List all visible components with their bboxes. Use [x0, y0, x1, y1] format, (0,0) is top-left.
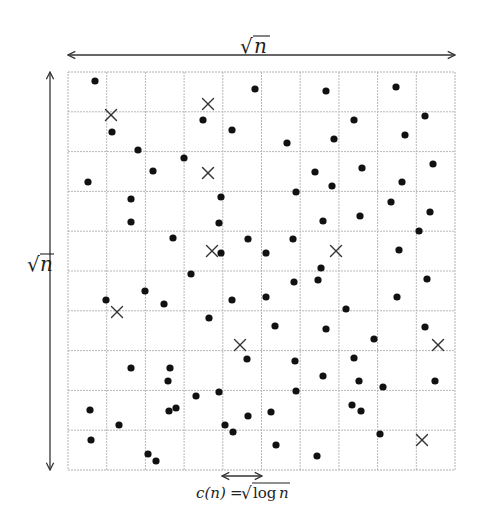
- point-dot: [392, 83, 399, 90]
- point-dot: [431, 377, 438, 384]
- cross-marker-icon: [417, 435, 428, 446]
- point-dot: [199, 116, 206, 123]
- point-dot: [267, 408, 274, 415]
- point-dot: [379, 383, 386, 390]
- point-dot: [322, 87, 329, 94]
- top-radical-sign: √: [240, 34, 253, 58]
- point-dot: [328, 182, 335, 189]
- point-dot: [172, 404, 179, 411]
- point-dot: [262, 249, 269, 256]
- point-dot: [290, 278, 297, 285]
- point-dot: [86, 406, 93, 413]
- point-dot: [401, 131, 408, 138]
- point-dot: [283, 139, 290, 146]
- point-dot: [244, 412, 251, 419]
- point-dot: [228, 296, 235, 303]
- point-dot: [192, 392, 199, 399]
- point-dot: [291, 357, 298, 364]
- point-dot: [180, 154, 187, 161]
- point-dot: [317, 264, 324, 271]
- point-dot: [330, 135, 337, 142]
- point-dot: [215, 388, 222, 395]
- point-dot: [165, 407, 172, 414]
- cross-marker-icon: [331, 246, 342, 257]
- cell-size-label: c(n) = √ log n: [196, 483, 290, 503]
- point-dot: [376, 430, 383, 437]
- point-dot: [393, 293, 400, 300]
- point-dot: [314, 276, 321, 283]
- point-dot: [187, 270, 194, 277]
- cross-marker-icon: [112, 307, 123, 318]
- point-dot: [348, 401, 355, 408]
- point-dot: [398, 178, 405, 185]
- point-dot: [426, 208, 433, 215]
- cell-size-var: n: [279, 484, 289, 502]
- cell-size-radical-sign: √: [241, 483, 252, 503]
- point-dot: [84, 178, 91, 185]
- point-dot: [169, 234, 176, 241]
- point-dot: [115, 421, 122, 428]
- point-dot: [149, 167, 156, 174]
- point-dot: [319, 372, 326, 379]
- point-dot: [350, 354, 357, 361]
- point-dot: [127, 195, 134, 202]
- point-dot: [313, 452, 320, 459]
- point-dot: [370, 335, 377, 342]
- point-dot: [342, 305, 349, 312]
- point-dot: [423, 275, 430, 282]
- left-dimension-symbol: n: [40, 252, 53, 276]
- cross-marker-icon: [203, 99, 214, 110]
- point-dot: [243, 355, 250, 362]
- point-dot: [421, 323, 428, 330]
- point-dot: [251, 85, 258, 92]
- point-dot: [152, 457, 159, 464]
- point-dot: [421, 112, 428, 119]
- point-dot: [215, 219, 222, 226]
- point-dot: [262, 293, 269, 300]
- point-dot: [271, 322, 278, 329]
- point-dot: [164, 377, 171, 384]
- point-dot: [350, 116, 357, 123]
- point-dot: [357, 407, 364, 414]
- marked-points: [106, 99, 444, 446]
- point-dot: [292, 188, 299, 195]
- point-dot: [229, 428, 236, 435]
- point-dot: [292, 387, 299, 394]
- point-dot: [134, 146, 141, 153]
- point-dot: [102, 296, 109, 303]
- cross-marker-icon: [235, 340, 246, 351]
- point-dot: [355, 377, 362, 384]
- point-dot: [144, 450, 151, 457]
- point-dot: [160, 300, 167, 307]
- point-dot: [319, 217, 326, 224]
- point-dot: [166, 364, 173, 371]
- top-dimension-symbol: n: [254, 34, 267, 58]
- point-dot: [322, 325, 329, 332]
- cell-size-lhs: c(n): [196, 484, 226, 502]
- point-dot: [127, 364, 134, 371]
- point-dot: [244, 235, 251, 242]
- point-dot: [221, 421, 228, 428]
- point-dot: [415, 227, 422, 234]
- point-dot: [429, 160, 436, 167]
- point-dot: [217, 193, 224, 200]
- point-dot: [356, 212, 363, 219]
- point-dot: [141, 287, 148, 294]
- cross-marker-icon: [203, 168, 214, 179]
- point-dot: [387, 198, 394, 205]
- left-dimension-label: √ n: [27, 252, 54, 276]
- point-dot: [217, 249, 224, 256]
- grid-diagram: √ n √ n c(n) = √ log n: [0, 0, 479, 527]
- point-dot: [127, 218, 134, 225]
- top-dimension-label: √ n: [240, 34, 270, 58]
- grid: [68, 72, 455, 470]
- cell-size-log: log: [253, 484, 277, 502]
- point-dot: [91, 77, 98, 84]
- point-dot: [205, 314, 212, 321]
- cross-marker-icon: [207, 246, 218, 257]
- point-dot: [87, 436, 94, 443]
- point-dot: [272, 441, 279, 448]
- point-dot: [395, 246, 402, 253]
- point-dot: [228, 126, 235, 133]
- point-dot: [311, 168, 318, 175]
